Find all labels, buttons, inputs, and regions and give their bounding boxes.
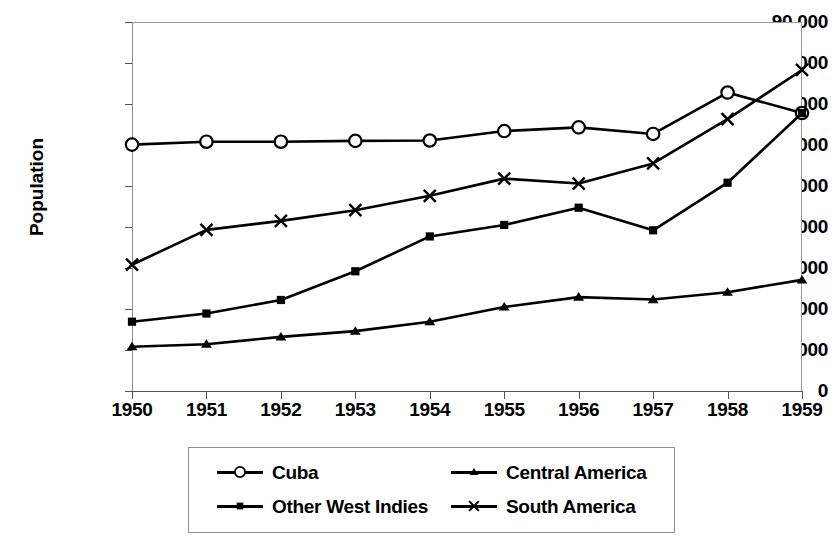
x-axis-tick-label: 1955 [464, 400, 544, 419]
x-axis-tick-mark [430, 392, 431, 399]
legend-marker-circle-icon [217, 464, 263, 480]
x-axis-tick-mark [206, 392, 207, 399]
x-axis-tick-mark [728, 392, 729, 399]
x-axis-line [132, 391, 803, 392]
y-axis-line [132, 22, 133, 392]
x-axis-tick-mark [653, 392, 654, 399]
legend-marker-square-icon [217, 498, 263, 514]
legend-label: Central America [506, 463, 647, 482]
x-axis-tick-mark [579, 392, 580, 399]
x-axis-tick-label: 1951 [166, 400, 246, 419]
legend-label: Cuba [272, 463, 318, 482]
x-axis-tick-mark [802, 392, 803, 399]
legend-item-other-west-indies[interactable]: Other West Indies [217, 492, 428, 520]
legend-label: South America [506, 497, 635, 516]
x-axis-tick-label: 1956 [539, 400, 619, 419]
x-axis-tick-label: 1954 [390, 400, 470, 419]
x-axis-tick-mark [281, 392, 282, 399]
x-axis-tick-label: 1959 [762, 400, 833, 419]
chart-legend: CubaCentral AmericaOther West IndiesSout… [188, 447, 675, 533]
legend-item-south-america[interactable]: South America [451, 492, 635, 520]
x-axis-tick-label: 1952 [241, 400, 321, 419]
legend-item-central-america[interactable]: Central America [451, 458, 647, 486]
x-axis-tick-mark [132, 392, 133, 399]
x-axis-tick-label: 1958 [688, 400, 768, 419]
x-axis-tick-label: 1950 [92, 400, 172, 419]
x-axis-tick-mark [504, 392, 505, 399]
legend-marker-triangle-icon [451, 464, 497, 480]
y-axis-title: Population [26, 87, 48, 287]
legend-marker-cross-icon [451, 498, 497, 514]
legend-item-cuba[interactable]: Cuba [217, 458, 318, 486]
x-axis-tick-mark [355, 392, 356, 399]
legend-label: Other West Indies [272, 497, 428, 516]
plot-area [132, 22, 802, 392]
x-axis-tick-label: 1953 [315, 400, 395, 419]
x-axis-tick-label: 1957 [613, 400, 693, 419]
